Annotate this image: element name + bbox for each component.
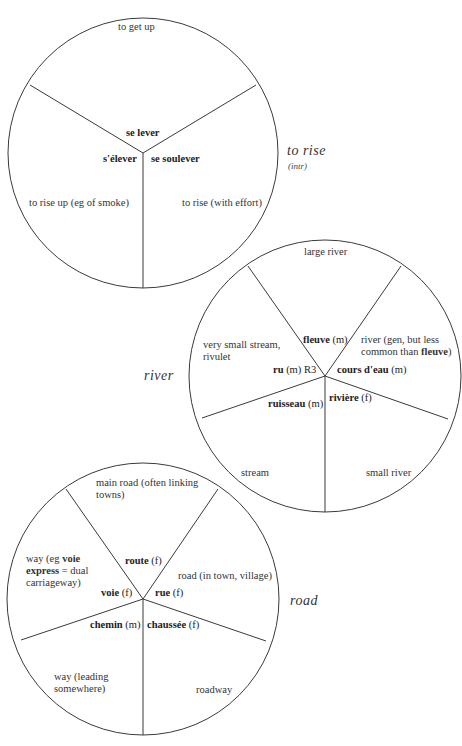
term-gender: (f) [361, 392, 372, 403]
term-label: s'élever [103, 153, 137, 165]
wheel-to-rise [8, 18, 278, 288]
term-word: voie [101, 587, 119, 598]
meaning-label: river (gen, but less common than fleuve) [361, 334, 453, 358]
term-gender: (m) [125, 619, 140, 630]
term-register: R3 [304, 364, 316, 375]
meaning-label: way (leading somewhere) [54, 671, 124, 695]
meaning-label: roadway [196, 684, 232, 696]
meaning-label: way (eg voie express = dual carriageway) [26, 553, 98, 589]
term-label: route (f) [125, 555, 162, 567]
wheel-spoke [143, 489, 218, 599]
diagram-title: river [144, 368, 174, 384]
wheel-spoke [325, 266, 401, 376]
term-label: fleuve (m) [303, 334, 348, 346]
diagram-title: to rise [287, 143, 326, 159]
meaning-label: to rise (with effort) [182, 197, 262, 209]
term-gender: (f) [151, 555, 162, 566]
wheel-spoke [30, 85, 143, 153]
wheel-river [189, 240, 461, 512]
term-word: chaussée [147, 619, 186, 630]
term-word: rivière [329, 392, 359, 403]
wheel-spoke [143, 85, 256, 153]
term-gender: (m) [308, 398, 323, 409]
term-gender: (f) [189, 619, 200, 630]
diagram-subtitle: (intr) [288, 161, 307, 171]
term-gender: (m) [332, 334, 347, 345]
term-word: route [125, 555, 149, 566]
term-word: fleuve [303, 334, 330, 345]
term-gender: (m) [391, 364, 406, 375]
term-word: cours d'eau [337, 364, 389, 375]
term-label: rivière (f) [329, 392, 372, 404]
term-label: voie (f) [101, 587, 132, 599]
wheel-spoke [202, 376, 325, 418]
meaning-label: to rise up (eg of smoke) [29, 197, 129, 209]
term-label: se lever [126, 127, 160, 139]
meaning-label: large river [304, 246, 347, 258]
term-word: rue [155, 587, 170, 598]
term-word: ruisseau [268, 398, 305, 409]
meaning-label: very small stream, rivulet [203, 339, 293, 363]
term-label: cours d'eau (m) [337, 364, 406, 376]
diagram-title: road [290, 593, 318, 609]
meaning-label: road (in town, village) [178, 570, 272, 582]
meaning-label: main road (often linking towns) [96, 477, 201, 501]
meaning-text: ) [448, 346, 452, 357]
term-label: se soulever [151, 153, 200, 165]
meaning-label: stream [241, 467, 269, 479]
meaning-label: to get up [118, 21, 155, 33]
meaning-label: small river [366, 467, 411, 479]
wheel-road [7, 463, 279, 735]
term-gender: (f) [173, 587, 184, 598]
term-word: chemin [90, 619, 123, 630]
term-label: chaussée (f) [147, 619, 199, 631]
term-label: chemin (m) [90, 619, 140, 631]
meaning-term: fleuve [421, 346, 448, 357]
term-label: rue (f) [155, 587, 183, 599]
term-label: ru (m) R3 [273, 364, 316, 376]
term-gender: (m) [286, 364, 301, 375]
term-gender: (f) [122, 587, 133, 598]
meaning-text: way (eg [26, 553, 62, 564]
term-word: ru [273, 364, 284, 375]
term-label: ruisseau (m) [268, 398, 323, 410]
